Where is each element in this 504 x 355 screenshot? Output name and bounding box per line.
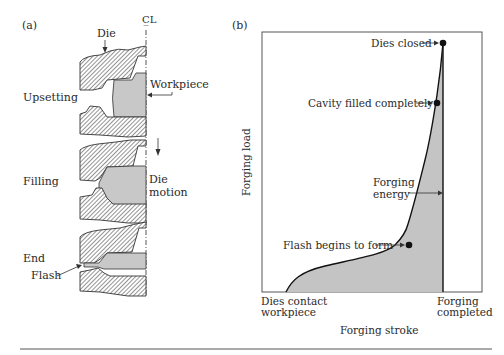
x-end-label-2: completed (437, 306, 493, 318)
panel-a-tag: (a) (22, 20, 37, 32)
die-motion-label-2: motion (149, 187, 188, 199)
stage-label-filling: Filling (23, 176, 59, 188)
x-start-label-2: workpiece (261, 306, 316, 318)
annotation-energy-2: energy (373, 188, 410, 200)
annotation-flash-begins: Flash begins to form (283, 239, 393, 251)
point-flash-begins (406, 242, 413, 249)
forging-figure (0, 0, 504, 355)
stage-label-end: End (23, 253, 45, 265)
point-cavity-filled (434, 100, 441, 107)
forging-energy-area (286, 43, 443, 292)
die-label: Die (97, 28, 116, 40)
die-motion-label-1: Die (149, 174, 168, 186)
stage-end (80, 222, 146, 296)
y-axis-label: Forging load (240, 128, 252, 196)
stage-label-upsetting: Upsetting (23, 92, 78, 104)
point-dies-closed (440, 40, 447, 47)
stage-upsetting (80, 46, 146, 137)
chart-frame (262, 32, 482, 292)
panel-b-tag: (b) (232, 20, 248, 32)
flash-label: Flash (31, 270, 61, 282)
annotation-energy-1: Forging (373, 176, 415, 188)
centerline-symbol: C̲L (142, 14, 156, 26)
annotation-dies-closed: Dies closed (371, 37, 432, 49)
annotation-cavity-filled: Cavity filled completely (308, 97, 433, 109)
x-axis-label: Forging stroke (340, 324, 418, 336)
workpiece-label: Workpiece (150, 79, 209, 91)
stage-filling (80, 140, 146, 223)
